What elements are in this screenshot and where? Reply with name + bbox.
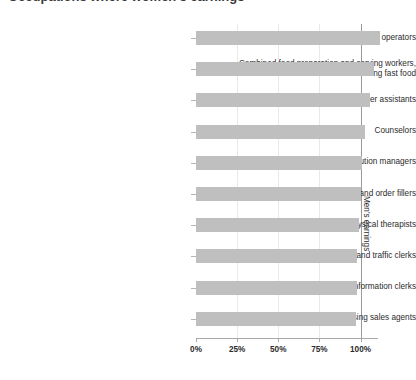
bar-row [196,125,365,139]
chart-container: Occupations where women's earnings 0%25%… [0,0,416,380]
chart-title-cropped: Occupations where women's earnings [0,0,416,9]
x-tick-100 [361,338,362,342]
bar [196,31,380,45]
x-tick-0 [196,338,197,342]
x-tick-label-50: 50% [270,345,286,354]
bar [196,156,362,170]
bar [196,281,357,295]
bar [196,218,359,232]
x-tick-label-100: 100% [350,345,371,354]
x-axis-line [196,338,378,339]
bar [196,249,357,263]
bar [196,62,374,76]
bar-row [196,281,357,295]
chart-title-text: Occupations where women's earnings [8,0,244,4]
x-tick-50 [278,338,279,342]
bar-row [196,156,362,170]
x-tick-label-25: 25% [229,345,245,354]
bar-row [196,218,359,232]
x-tick-label-75: 75% [311,345,327,354]
x-tick-75 [319,338,320,342]
bar-row [196,93,370,107]
bar-row [196,31,380,45]
bar [196,187,361,201]
bar [196,93,370,107]
bar [196,125,365,139]
bar [196,312,356,326]
mens-earnings-annotation: Men's earnings [362,196,371,251]
bar-row [196,312,356,326]
x-tick-25 [237,338,238,342]
bar-row [196,249,357,263]
bar-row [196,62,374,76]
x-tick-label-0: 0% [190,345,202,354]
bar-row [196,187,361,201]
